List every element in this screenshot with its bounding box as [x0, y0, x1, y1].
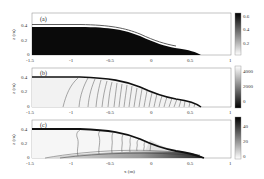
ylabel-c: z (m): [11, 134, 16, 145]
xtick-c: -0.5: [106, 161, 114, 166]
ytick-c: 0.4: [21, 127, 28, 132]
xtick-b: -1: [69, 110, 74, 115]
ytick-c: 0: [27, 155, 30, 160]
cbar-tick-c: 0: [243, 154, 246, 159]
panel-c: (c) 0.4 0.2 0 z (m) -1.5 -1 -0.5 0 0.5 1…: [11, 117, 249, 174]
cbar-tick-a: 0.4: [243, 27, 250, 32]
ytick-a-0: 0: [27, 52, 30, 57]
ytick-c: 0.2: [21, 141, 28, 146]
ytick-a-0.4: 0.4: [21, 23, 28, 28]
xlabel: x (m): [124, 169, 135, 174]
ytick-b: 0.2: [21, 89, 28, 94]
xtick-c: -1: [69, 161, 74, 166]
ytick-a-0.2: 0.2: [21, 38, 28, 43]
xtick-b: -0.5: [106, 110, 114, 115]
cbar-tick-c: 20: [243, 139, 249, 144]
figure: (a) 0.4 0.2 0 z (m) -1.5 -1 -0.5 0 0.5 1…: [0, 0, 264, 179]
xtick-b: -1.5: [26, 110, 34, 115]
ylabel-a: z (m): [11, 29, 16, 40]
xtick-b: 1: [229, 110, 232, 115]
xtick-a: -0.5: [106, 58, 114, 63]
xtick-b: 0: [150, 110, 153, 115]
cbar-tick-c: 40: [243, 124, 249, 129]
xtick-c: 0: [150, 161, 153, 166]
cbar-tick-b: 2000: [243, 84, 254, 89]
panel-b: (b) 0.4 0.2 0 z (m) -1.5 -1 -0.5 0 0.5 1…: [11, 66, 254, 115]
colorbar-a: [235, 13, 241, 55]
cbar-tick-a: 0.2: [243, 41, 250, 46]
xtick-a: -1.5: [26, 58, 34, 63]
cbar-tick-b: 0: [243, 99, 246, 104]
xtick-b: 0.5: [187, 110, 194, 115]
xtick-c: 1: [229, 161, 232, 166]
ytick-b: 0.4: [21, 75, 28, 80]
panel-label-a: (a): [40, 16, 47, 23]
xtick-a: 0: [150, 58, 153, 63]
xtick-a: -1: [69, 58, 74, 63]
panel-label-b: (b): [40, 70, 47, 77]
xtick-c: 0.5: [187, 161, 194, 166]
ylabel-b: z (m): [11, 83, 16, 94]
panel-a: (a) 0.4 0.2 0 z (m) -1.5 -1 -0.5 0 0.5 1…: [11, 13, 250, 63]
cbar-tick-a: 0.6: [243, 14, 250, 19]
ytick-b: 0: [27, 104, 30, 109]
panel-label-c: (c): [40, 122, 47, 129]
cbar-tick-b: 4000: [243, 69, 254, 74]
colorbar-b: [235, 66, 241, 108]
colorbar-c: [235, 117, 241, 159]
xtick-c: -1.5: [26, 161, 34, 166]
xtick-a: 1: [229, 58, 232, 63]
xtick-a: 0.5: [187, 58, 194, 63]
